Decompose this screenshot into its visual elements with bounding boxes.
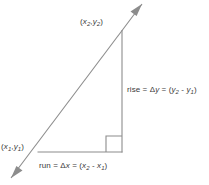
run-word: run [39,161,51,170]
minus-sign: - [90,161,97,170]
arrowhead-lower-icon [11,166,23,178]
rise-word: rise [127,85,140,94]
rise-equation-label: rise = Δy = (y2 - y1) [127,85,197,95]
arrowhead-upper-icon [131,4,143,16]
point-label-upper: (x2,y2) [80,17,103,27]
term2-variable: y [186,85,190,94]
x-subscript: 1 [8,146,11,152]
paren-close: ) [194,85,197,94]
equals-sign: = [51,161,60,170]
paren-close: ) [100,17,103,26]
paren-close: ) [21,142,24,151]
slope-diagram-figure: (x2,y2) (x1,y1) rise = Δy = (y2 - y1) ru… [0,0,209,185]
y-subscript: 1 [18,146,21,152]
equals-sign-2: = [70,161,79,170]
x-subscript: 2 [87,21,90,27]
term1-variable: y [171,85,175,94]
point-label-lower: (x1,y1) [1,142,24,152]
y-subscript: 2 [97,21,100,27]
term2-subscript: 1 [191,89,194,95]
term1-subscript: 2 [176,89,179,95]
term2-subscript: 1 [101,165,104,171]
term1-subscript: 2 [86,165,89,171]
equals-sign-2: = [159,85,168,94]
equals-sign: = [140,85,149,94]
run-equation-label: run = Δx = (x2 - x1) [39,161,107,171]
right-angle-marker-icon [106,136,122,152]
